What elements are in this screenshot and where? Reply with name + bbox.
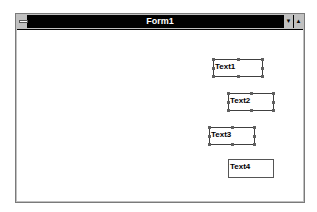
resize-handle[interactable] [250,92,253,95]
resize-handle[interactable] [208,143,211,146]
textbox-label: Text3 [211,130,231,139]
resize-handle[interactable] [231,143,234,146]
resize-handle[interactable] [212,67,215,70]
resize-handle[interactable] [253,126,256,129]
textbox-label: Text2 [230,96,250,105]
resize-handle[interactable] [253,143,256,146]
resize-handle[interactable] [261,58,264,61]
resize-handle[interactable] [261,67,264,70]
resize-handle[interactable] [227,92,230,95]
resize-handle[interactable] [272,92,275,95]
resize-handle[interactable] [237,58,240,61]
form-window: Form1 ▼ ▲ Text1 Text2 Text3 [15,13,305,203]
resize-handle[interactable] [208,126,211,129]
resize-handle[interactable] [250,109,253,112]
title-bar[interactable]: Form1 ▼ ▲ [17,15,303,28]
textbox-label: Text1 [215,62,235,71]
resize-handle[interactable] [237,75,240,78]
resize-handle[interactable] [272,109,275,112]
system-menu-icon[interactable] [17,15,28,28]
resize-handle[interactable] [272,101,275,104]
resize-handle[interactable] [227,101,230,104]
resize-handle[interactable] [231,126,234,129]
resize-handle[interactable] [212,58,215,61]
minimize-button[interactable]: ▼ [283,15,293,28]
window-title: Form1 [17,15,303,28]
maximize-button[interactable]: ▲ [293,15,303,28]
resize-handle[interactable] [261,75,264,78]
textbox-label: Text4 [230,162,250,171]
resize-handle[interactable] [212,75,215,78]
resize-handle[interactable] [253,135,256,138]
resize-handle[interactable] [227,109,230,112]
resize-handle[interactable] [208,135,211,138]
textbox-text4[interactable]: Text4 [228,159,274,178]
form-design-surface[interactable]: Text1 Text2 Text3 [17,29,303,201]
